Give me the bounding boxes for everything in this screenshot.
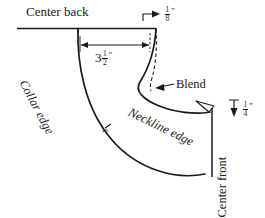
label-center-front: Center front (216, 157, 229, 218)
dimension-whole-number: 3 (95, 50, 102, 66)
dimension-leader-center-back-offset (143, 11, 160, 22)
dimension-fraction: 1 4 (243, 101, 249, 118)
fraction-numerator: 1 (243, 101, 249, 109)
dimension-unit: ″ (109, 50, 113, 60)
dimension-text-center-back-offset: 1 8 ″ (164, 6, 175, 23)
fraction-denominator: 2 (102, 58, 108, 67)
blend-callout-arrow (155, 84, 174, 91)
fraction-denominator: 4 (243, 109, 249, 118)
dimension-unit: ″ (249, 101, 253, 111)
dimension-fraction: 1 8 (165, 6, 171, 23)
pattern-diagram: Center back Collar edge Neckline edge Bl… (0, 0, 265, 218)
arrow-icon-right (142, 42, 149, 48)
neckline-edge-curve (138, 29, 210, 114)
dimension-line-collar-width (80, 33, 150, 52)
dimension-text-center-front-offset: 1 4 ″ (242, 101, 253, 118)
arrow-icon-left (81, 42, 88, 48)
fraction-denominator: 8 (165, 14, 171, 23)
arrow-icon-blend (155, 84, 165, 91)
fraction-numerator: 1 (102, 50, 108, 58)
dimension-unit: ″ (171, 6, 175, 16)
arrow-icon-one-eighth (152, 11, 160, 18)
label-blend: Blend (176, 78, 206, 91)
dimension-text-collar-width: 3 1 2 ″ (95, 50, 113, 67)
dimension-leader-center-front-offset (229, 100, 239, 117)
label-center-back: Center back (26, 5, 88, 18)
arrow-icon-one-quarter (231, 108, 238, 117)
fraction-numerator: 1 (165, 6, 171, 14)
dimension-fraction: 1 2 (102, 50, 108, 67)
